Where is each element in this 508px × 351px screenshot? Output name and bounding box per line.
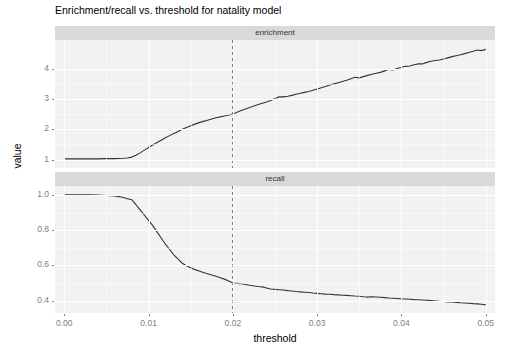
y-axis-tick-label: 0.4 <box>37 296 49 305</box>
gridline-horizontal <box>55 99 495 100</box>
plot-area-recall <box>55 186 495 313</box>
gridline-horizontal <box>55 69 495 70</box>
gridline-vertical <box>64 40 65 168</box>
gridline-vertical <box>317 40 318 168</box>
y-axis-tick-label: 2 <box>44 124 49 133</box>
facet-panel-enrichment: enrichment <box>55 26 495 168</box>
gridline-vertical <box>233 186 234 313</box>
y-axis-tick-label: 1.0 <box>37 190 49 199</box>
gridline-vertical <box>233 40 234 168</box>
gridline-vertical-minor <box>275 186 276 313</box>
gridline-vertical <box>149 40 150 168</box>
gridline-vertical-minor <box>191 40 192 168</box>
x-axis-tick-mark <box>317 314 318 316</box>
x-axis-title: threshold <box>55 332 495 344</box>
gridline-horizontal-minor <box>55 84 495 85</box>
gridline-horizontal <box>55 160 495 161</box>
gridline-vertical-minor <box>444 40 445 168</box>
facet-panel-recall: recall <box>55 172 495 313</box>
y-axis-tick-mark <box>52 160 54 161</box>
chart-root: Enrichment/recall vs. threshold for nata… <box>0 0 508 351</box>
x-axis-tick-mark <box>149 314 150 316</box>
y-axis-tick-mark <box>52 230 54 231</box>
y-axis-tick-label: 1 <box>44 155 49 164</box>
gridline-horizontal-minor <box>55 213 495 214</box>
gridline-vertical <box>64 186 65 313</box>
x-axis-tick-label: 0.01 <box>140 319 157 328</box>
y-axis-tick-label: 3 <box>44 94 49 103</box>
gridline-vertical <box>486 40 487 168</box>
y-axis-tick-label: 4 <box>44 64 49 73</box>
y-axis-tick-mark <box>52 69 54 70</box>
x-axis-tick-mark <box>233 314 234 316</box>
chart-title: Enrichment/recall vs. threshold for nata… <box>55 4 281 16</box>
gridline-vertical-minor <box>359 186 360 313</box>
gridline-vertical <box>149 186 150 313</box>
gridline-vertical <box>401 40 402 168</box>
x-axis-tick-mark <box>401 314 402 316</box>
gridline-horizontal-minor <box>55 114 495 115</box>
y-axis-tick-label: 0.6 <box>37 260 49 269</box>
gridline-vertical-minor <box>106 40 107 168</box>
y-axis-tick-mark <box>52 301 54 302</box>
y-axis-tick-mark <box>52 99 54 100</box>
gridline-vertical-minor <box>106 186 107 313</box>
gridline-horizontal-minor <box>55 283 495 284</box>
x-axis-tick-label: 0.04 <box>393 319 410 328</box>
gridline-horizontal <box>55 265 495 266</box>
gridline-vertical <box>317 186 318 313</box>
x-axis-tick-label: 0.02 <box>225 319 242 328</box>
gridline-horizontal <box>55 230 495 231</box>
facet-strip-label-recall: recall <box>265 175 284 183</box>
gridline-vertical-minor <box>359 40 360 168</box>
gridline-horizontal <box>55 195 495 196</box>
x-axis-tick-label: 0.05 <box>477 319 494 328</box>
gridline-vertical-minor <box>191 186 192 313</box>
facet-strip-label-enrichment: enrichment <box>255 29 295 37</box>
x-axis-tick-label: 0.03 <box>309 319 326 328</box>
x-axis-tick-mark <box>64 314 65 316</box>
gridline-horizontal <box>55 301 495 302</box>
gridline-horizontal-minor <box>55 248 495 249</box>
y-axis-tick-mark <box>52 195 54 196</box>
y-axis-tick-label: 0.8 <box>37 225 49 234</box>
gridline-vertical <box>401 186 402 313</box>
y-axis-tick-mark <box>52 265 54 266</box>
gridline-vertical <box>486 186 487 313</box>
plot-area-enrichment <box>55 40 495 168</box>
x-axis-tick-label: 0.00 <box>56 319 73 328</box>
x-axis-tick-mark <box>486 314 487 316</box>
y-axis-title: value <box>11 126 23 186</box>
y-axis-tick-mark <box>52 129 54 130</box>
gridline-horizontal <box>55 129 495 130</box>
gridline-vertical-minor <box>275 40 276 168</box>
gridline-horizontal-minor <box>55 144 495 145</box>
gridline-vertical-minor <box>444 186 445 313</box>
facet-strip-recall: recall <box>55 172 495 186</box>
facet-strip-enrichment: enrichment <box>55 26 495 40</box>
